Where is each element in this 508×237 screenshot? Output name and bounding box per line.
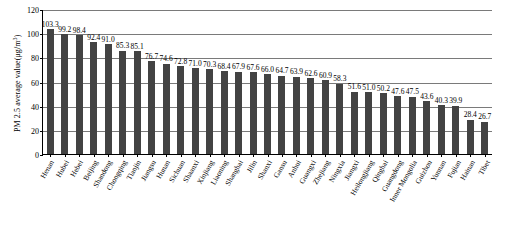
bar-value-label: 40.3 [435,97,448,105]
category-cell: Zhejiang [318,157,333,235]
bar[interactable] [394,96,401,154]
category-cell: Jilin [245,157,260,235]
category-cell: Gansu [274,157,289,235]
y-tick-label-0: 0 [9,151,39,160]
bar-cell[interactable]: 98.4 [72,10,86,154]
bar-cell[interactable]: 28.4 [463,10,477,154]
category-label: Hubei [55,159,71,179]
bar-cell[interactable]: 67.9 [231,10,245,154]
bar-cell[interactable]: 66.0 [260,10,274,154]
bar-value-label: 76.7 [145,53,158,61]
category-cell: Shanxi [260,157,275,235]
bar[interactable] [409,97,416,154]
bar[interactable] [336,84,343,154]
bar-value-label: 26.7 [478,113,491,121]
bar-cell[interactable]: 68.4 [217,10,231,154]
bar-cell[interactable]: 99.2 [57,10,71,154]
bar[interactable] [235,72,242,154]
bar[interactable] [221,71,228,154]
bar[interactable] [264,74,271,154]
y-tick-label-20: 20 [9,126,39,135]
bar-cell[interactable]: 64.7 [275,10,289,154]
bar-value-label: 51.0 [362,84,375,92]
category-label: Henan [39,159,55,180]
bar-cell[interactable]: 85.3 [115,10,129,154]
bar-value-label: 74.6 [160,55,173,63]
bar[interactable] [467,120,474,154]
bar-value-label: 60.9 [319,72,332,80]
category-cell: Jiangsu [144,157,159,235]
bar-cell[interactable]: 26.7 [478,10,492,154]
category-cell: Hubei [57,157,72,235]
bar-cell[interactable]: 62.6 [304,10,318,154]
bar-value-label: 47.5 [406,88,419,96]
bar-cell[interactable]: 71.0 [188,10,202,154]
bar[interactable] [250,72,257,154]
bar[interactable] [351,92,358,154]
bar-cell[interactable]: 76.7 [144,10,158,154]
bar-cell[interactable]: 58.3 [333,10,347,154]
category-label: Shanxi [257,159,274,181]
bar[interactable] [307,78,314,154]
category-cell: Sichuan [173,157,188,235]
bar[interactable] [293,77,300,154]
bar[interactable] [452,106,459,154]
bar-cell[interactable]: 91.0 [101,10,115,154]
bar-cell[interactable]: 63.9 [289,10,303,154]
category-cell: Guizhou [419,157,434,235]
bar-cell[interactable]: 47.5 [405,10,419,154]
bar-cell[interactable]: 39.9 [449,10,463,154]
bar-series: 103.399.298.492.491.085.385.176.774.672.… [43,10,492,154]
bar[interactable] [148,61,155,154]
bar[interactable] [76,35,83,154]
bar-cell[interactable]: 72.8 [173,10,187,154]
category-cell: Fujian [448,157,463,235]
bar[interactable] [119,51,126,154]
bar[interactable] [192,68,199,154]
bar[interactable] [177,66,184,154]
x-axis-category-labels: HenanHubeiHebeiBeijingShandongChongqingT… [42,157,492,235]
bar[interactable] [206,69,213,154]
category-cell: Chongqing [115,157,130,235]
bar-value-label: 67.6 [246,64,259,72]
bar-cell[interactable]: 40.3 [434,10,448,154]
bar-cell[interactable]: 67.6 [246,10,260,154]
bar[interactable] [134,51,141,154]
bar-value-label: 71.0 [189,60,202,68]
category-cell: Liaoning [216,157,231,235]
bar-cell[interactable]: 103.3 [43,10,57,154]
category-cell: Shandong [100,157,115,235]
category-cell: Hunan [158,157,173,235]
bar-value-label: 67.9 [232,63,245,71]
bar-cell[interactable]: 47.6 [391,10,405,154]
bar[interactable] [438,105,445,154]
bar-cell[interactable]: 51.6 [347,10,361,154]
category-cell: Shaanxi [187,157,202,235]
category-cell: Tibet [477,157,492,235]
bar-value-label: 70.3 [203,61,216,69]
bar-cell[interactable]: 85.1 [130,10,144,154]
bar[interactable] [423,101,430,154]
bar-value-label: 28.4 [464,111,477,119]
bar[interactable] [105,44,112,154]
bar[interactable] [163,64,170,154]
bar[interactable] [481,122,488,154]
bar-value-label: 47.6 [391,88,404,96]
bar[interactable] [61,34,68,154]
bar-cell[interactable]: 51.0 [362,10,376,154]
bar-cell[interactable]: 74.6 [159,10,173,154]
bar-cell[interactable]: 50.2 [376,10,390,154]
category-cell: Tianjin [129,157,144,235]
bar[interactable] [365,92,372,154]
bar[interactable] [278,76,285,154]
bar-cell[interactable]: 43.6 [420,10,434,154]
bar[interactable] [322,80,329,154]
bar[interactable] [380,93,387,154]
bar-cell[interactable]: 92.4 [86,10,100,154]
bar-cell[interactable]: 60.9 [318,10,332,154]
bar[interactable] [47,29,54,154]
bar[interactable] [90,42,97,154]
category-label: Gansu [272,159,288,179]
bar-cell[interactable]: 70.3 [202,10,216,154]
category-cell: Inner Mongolia [405,157,420,235]
